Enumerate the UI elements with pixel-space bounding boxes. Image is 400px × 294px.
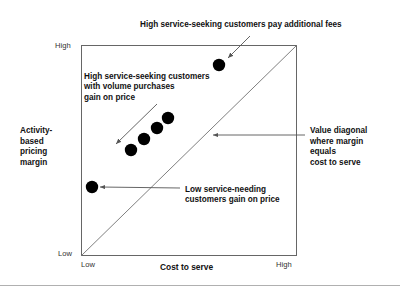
x-axis-title: Cost to serve [160,262,213,272]
top-annotation-text: High service-seeking customers pay addit… [140,20,395,30]
volume-purchase-point-3 [151,122,163,134]
y-axis-low-tick: Low [58,249,72,258]
volume-purchase-point-1 [125,144,137,156]
volume-purchase-point-2 [138,133,150,145]
diagonal-annotation-text: Value diagonal where margin equals cost … [310,126,398,168]
x-axis-high-tick: High [276,260,292,269]
volume-annotation-text: High service-seeking customers with volu… [84,72,244,103]
page-bottom-rule [0,285,400,286]
chart-page: High service-seeking customers pay addit… [0,0,400,294]
y-axis-title: Activity- based pricing margin [20,126,78,168]
volume-purchase-point-4 [162,112,174,124]
low-service-needing-point [86,181,98,193]
high-service-seeking-point [213,59,225,71]
y-axis-high-tick: High [55,41,71,50]
low-service-annotation-text: Low service-needing customers gain on pr… [185,185,305,206]
x-axis-low-tick: Low [81,260,95,269]
